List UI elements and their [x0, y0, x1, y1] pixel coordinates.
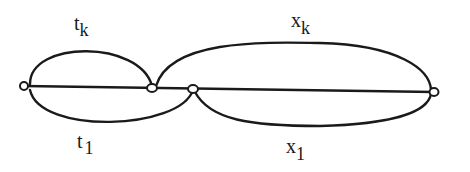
label-t-1: t1: [77, 130, 94, 158]
node-4: [430, 88, 439, 96]
label-x-1: x1: [286, 135, 305, 164]
edge-x-1: [195, 92, 431, 126]
edge-x-k: [156, 43, 431, 90]
node-3: [188, 85, 198, 93]
label-t-k: tk: [74, 12, 89, 40]
node-1: [20, 82, 28, 90]
node-2: [147, 84, 157, 92]
graph-diagram: tk t1 xk x1: [0, 0, 470, 172]
edge-t-k: [30, 51, 152, 86]
label-x-k: xk: [291, 9, 310, 38]
baseline-edge: [24, 86, 434, 92]
edge-t-1: [30, 90, 193, 122]
